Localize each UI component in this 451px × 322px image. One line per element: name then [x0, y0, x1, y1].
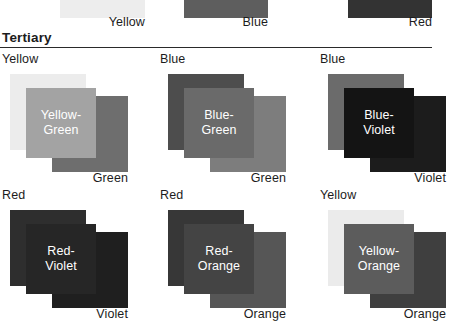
tertiary-color-cell: RedRed-VioletViolet [0, 186, 144, 322]
tertiary-color-cell: YellowYellow-GreenGreen [0, 50, 144, 186]
tertiary-color-square: Yellow-Orange [344, 224, 414, 294]
color-swatch-label: Yellow [109, 16, 145, 29]
tertiary-color-label-line2: Orange [358, 259, 400, 274]
tertiary-color-square: Yellow-Green [26, 88, 96, 158]
parent-color-label-primary: Red [2, 188, 25, 202]
section-heading-tertiary: Tertiary [2, 30, 52, 46]
secondary-swatch-cell: Blue [184, 0, 268, 30]
tertiary-color-label-line2: Orange [198, 259, 240, 274]
tertiary-color-cell: RedRed-OrangeOrange [158, 186, 302, 322]
parent-color-label-primary: Blue [160, 52, 185, 66]
tertiary-color-square: Red-Orange [184, 224, 254, 294]
tertiary-color-label-line1: Blue- [364, 108, 394, 123]
tertiary-color-grid: YellowYellow-GreenGreenBlueBlue-GreenGre… [0, 50, 432, 322]
color-swatch-label: Red [409, 16, 432, 29]
parent-color-label-secondary: Orange [404, 307, 446, 321]
tertiary-color-label-line1: Red- [205, 244, 233, 259]
tertiary-color-square: Red-Violet [26, 224, 96, 294]
tertiary-color-label-line2: Violet [363, 123, 395, 138]
tertiary-color-square: Blue-Green [184, 88, 254, 158]
parent-color-label-secondary: Violet [96, 307, 128, 321]
parent-color-label-secondary: Violet [414, 171, 446, 185]
parent-color-label-primary: Yellow [2, 52, 38, 66]
tertiary-color-label-line1: Yellow- [359, 244, 400, 259]
secondary-swatch-cell: Red [348, 0, 432, 30]
tertiary-color-label-line2: Violet [45, 259, 77, 274]
tertiary-color-label-line2: Green [43, 123, 78, 138]
parent-color-label-primary: Yellow [320, 188, 356, 202]
secondary-swatch-cell: Yellow [60, 0, 145, 30]
tertiary-color-label-line1: Blue- [204, 108, 234, 123]
parent-color-label-secondary: Green [251, 171, 286, 185]
color-swatch-label: Blue [243, 16, 268, 29]
tertiary-color-cell: BlueBlue-GreenGreen [158, 50, 302, 186]
tertiary-color-cell: YellowYellow-OrangeOrange [318, 186, 451, 322]
secondary-swatch-row: YellowBlueRed [0, 0, 432, 30]
tertiary-color-cell: BlueBlue-VioletViolet [318, 50, 451, 186]
tertiary-color-label-line1: Red- [47, 244, 75, 259]
tertiary-color-square: Blue-Violet [344, 88, 414, 158]
tertiary-color-label-line2: Green [201, 123, 236, 138]
parent-color-label-secondary: Orange [244, 307, 286, 321]
tertiary-color-label-line1: Yellow- [41, 108, 82, 123]
parent-color-label-primary: Blue [320, 52, 345, 66]
parent-color-label-secondary: Green [93, 171, 128, 185]
parent-color-label-primary: Red [160, 188, 183, 202]
section-divider [0, 47, 432, 48]
